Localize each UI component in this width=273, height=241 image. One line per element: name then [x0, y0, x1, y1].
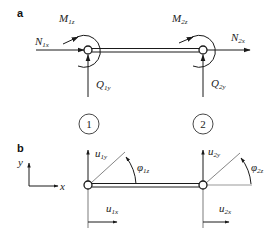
panel-a-label: a — [17, 7, 24, 19]
m1z-arrow-tail — [63, 37, 78, 44]
label-m2z: M2z — [171, 12, 188, 26]
label-q1y: Q1y — [96, 78, 111, 92]
panel-b-label: b — [17, 142, 24, 154]
node-1-hinge-b — [84, 181, 92, 189]
node-2-hinge-b — [199, 181, 207, 189]
beam-element-b — [92, 184, 199, 188]
node-2-hinge — [199, 46, 207, 54]
beam-element-diagram: a N1x M1z Q1y N2x M2z Q2y 1 2 b y x — [0, 0, 273, 241]
label-phi1z: φ1z — [137, 161, 150, 175]
beam-element-a — [92, 49, 199, 53]
label-n1x: N1x — [34, 35, 50, 49]
label-u1x: u1x — [106, 202, 119, 216]
coordinate-axes — [29, 163, 58, 186]
phi2-arc — [241, 158, 251, 184]
phi1-arc — [126, 157, 136, 184]
label-u2x: u2x — [219, 202, 232, 216]
label-u1y: u1y — [95, 147, 108, 161]
label-u2y: u2y — [208, 145, 221, 159]
label-q2y: Q2y — [211, 77, 226, 91]
label-m1z: M1z — [58, 12, 75, 26]
phi2-rotated-line — [206, 153, 240, 183]
node-1-displacements — [84, 150, 136, 228]
node-number-1: 1 — [86, 118, 92, 130]
m2z-arrow-tail — [179, 37, 193, 43]
axis-label-x: x — [59, 180, 65, 192]
label-phi2z: φ2z — [251, 161, 264, 175]
node-number-2: 2 — [200, 118, 206, 130]
node-2-displacements — [199, 150, 252, 228]
node-1-hinge — [84, 46, 92, 54]
label-n2x: N2x — [230, 31, 246, 45]
axis-label-y: y — [17, 156, 23, 168]
